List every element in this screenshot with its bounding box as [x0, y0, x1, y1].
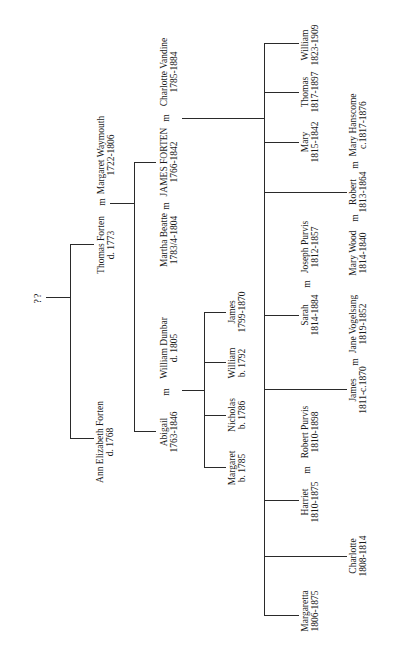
ann-branch [70, 438, 94, 439]
forten-child-branch-james [264, 389, 347, 390]
dunbar-child-branch [204, 312, 226, 313]
forten-child-branch-harriet [264, 500, 299, 501]
forten-children-bracket [264, 43, 265, 616]
forten-child-branch-william [264, 43, 299, 44]
thomas-sr-branch [70, 244, 94, 245]
family-tree-diagram: ?? Ann Elizabeth Forten d. 1768 Thomas F… [0, 0, 399, 650]
dunbar-child-branch [204, 415, 226, 416]
gen1-bracket [70, 244, 71, 439]
forten-child-branch-mary [264, 142, 299, 143]
gen2-bracket [134, 162, 135, 432]
forten-child-branch-thomas [264, 92, 299, 93]
dunbar-child-branch [204, 362, 226, 363]
forten-marriage-connector [182, 118, 264, 119]
dunbar-child-branch [204, 467, 226, 468]
forten-child-branch-sarah [264, 315, 299, 316]
forten-child-branch-margaretta [264, 615, 299, 616]
forten-child-branch-charlotte [264, 556, 347, 557]
james-forten-branch [134, 162, 156, 163]
forten-child-branch-robert [264, 192, 347, 193]
root-connector [46, 297, 70, 298]
dunbar-children-bracket [204, 312, 205, 468]
abigail-branch [134, 431, 156, 432]
dunbar-marriage-connector [182, 390, 204, 391]
thomas-marriage-connector [110, 203, 134, 204]
